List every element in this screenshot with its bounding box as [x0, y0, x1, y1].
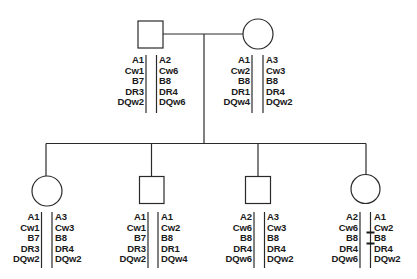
allele: DQw2 — [374, 254, 401, 265]
allele: DQw2 — [0, 254, 40, 265]
child-1-haplotype-right: A3 Cw3 B8 DR4 DQw2 — [55, 212, 82, 265]
allele: A1 — [0, 212, 40, 223]
allele: A3 — [266, 55, 293, 66]
child-4-symbol-circle — [351, 175, 380, 204]
child-1-symbol-circle — [32, 176, 62, 206]
father-symbol-square — [138, 21, 163, 48]
mother-symbol-circle — [243, 19, 273, 49]
allele: A1 — [210, 55, 250, 66]
allele: DQw4 — [161, 254, 188, 265]
allele: DQw2 — [104, 97, 144, 108]
allele: A2 — [318, 212, 358, 223]
allele: DQw2 — [55, 254, 82, 265]
father-haplotype-left: A1 Cw1 B7 DR3 DQw2 — [104, 55, 144, 108]
allele: DQw2 — [267, 254, 294, 265]
child-1-haplotype-left: A1 Cw1 B7 DR3 DQw2 — [0, 212, 40, 265]
allele: A2 — [212, 212, 252, 223]
mother-haplotype-left: A1 Cw2 B8 DR1 DQw4 — [210, 55, 250, 108]
child-2-symbol-square — [140, 177, 165, 204]
mother-haplotype-right: A3 Cw3 B8 DR4 DQw2 — [266, 55, 293, 108]
child-3-haplotype-left: A2 Cw6 B8 DR4 DQw6 — [212, 212, 252, 265]
child-3-haplotype-right: A3 Cw3 B8 DR4 DQw2 — [267, 212, 294, 265]
father-haplotype-right: A2 Cw6 B8 DR4 DQw6 — [159, 55, 186, 108]
allele: A2 — [159, 55, 186, 66]
allele: A1 — [104, 55, 144, 66]
allele: DQw6 — [159, 97, 186, 108]
allele: A3 — [55, 212, 82, 223]
allele: DQw6 — [318, 254, 358, 265]
child-2-haplotype-left: A1 Cw1 B7 DR3 DQw2 — [106, 212, 146, 265]
child-4-haplotype-left: A2 Cw6 B8 DR4 DQw6 — [318, 212, 358, 265]
allele: A1 — [106, 212, 146, 223]
allele: DQw4 — [210, 97, 250, 108]
allele: DQw6 — [212, 254, 252, 265]
child-4-haplotype-right: A1 Cw2 B8 DR4 DQw2 — [374, 212, 401, 265]
allele: A3 — [267, 212, 294, 223]
child-2-haplotype-right: A1 Cw2 B8 DR1 DQw4 — [161, 212, 188, 265]
child-3-symbol-square — [246, 177, 271, 204]
allele: A1 — [374, 212, 401, 223]
allele: A1 — [161, 212, 188, 223]
allele: DQw2 — [266, 97, 293, 108]
allele: DQw2 — [106, 254, 146, 265]
